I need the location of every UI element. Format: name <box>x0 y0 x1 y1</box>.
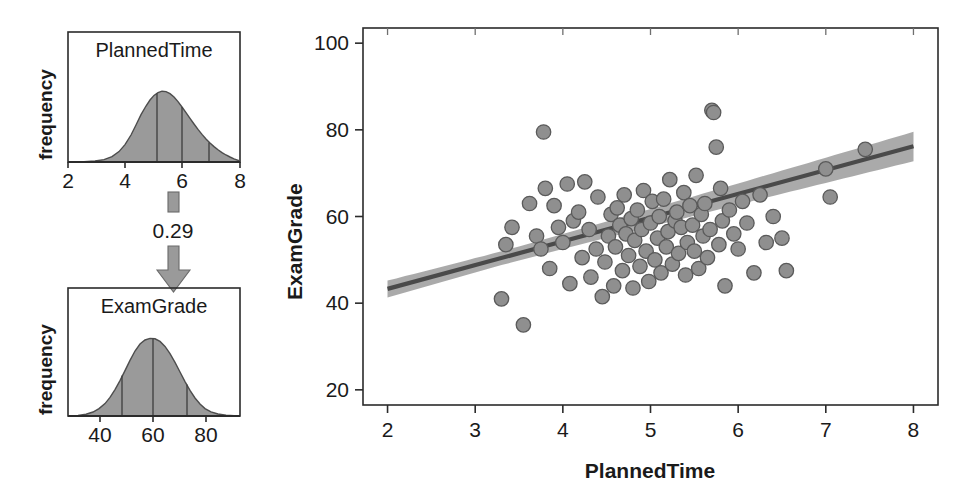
exam-grade-density-curve <box>68 338 240 416</box>
planned-time-panel-title: PlannedTime <box>95 39 212 61</box>
scatter-point <box>536 125 550 139</box>
scatter-point <box>823 190 837 204</box>
scatter-point <box>779 263 793 277</box>
scatter-point <box>819 162 833 176</box>
planned-time-density-curve <box>68 91 240 162</box>
scatter-point <box>722 203 736 217</box>
scatter-y-ticks: 20406080100 <box>314 31 363 401</box>
scatter-point <box>584 270 598 284</box>
scatter-point <box>678 268 692 282</box>
scatter-point <box>551 220 565 234</box>
exam-grade-panel-title: ExamGrade <box>101 295 208 317</box>
scatter-point <box>712 237 726 251</box>
scatter-point <box>538 181 552 195</box>
scatter-point <box>687 244 701 258</box>
scatter-point <box>499 237 513 251</box>
scatter-point <box>598 255 612 269</box>
scatterplot-panel: ExamGrade 20406080100 2345678 PlannedTim… <box>283 28 938 482</box>
scatter-point <box>621 248 635 262</box>
scatter-point <box>652 209 666 223</box>
scatter-xtick-label-7: 7 <box>820 418 832 441</box>
scatter-point <box>700 250 714 264</box>
scatter-point <box>713 181 727 195</box>
exam-grade-xtick-2: 80 <box>194 423 217 446</box>
scatter-point <box>759 235 773 249</box>
scatter-point <box>727 227 741 241</box>
scatter-point <box>689 168 703 182</box>
scatter-ytick-label-80: 80 <box>326 118 349 141</box>
scatter-point <box>677 185 691 199</box>
exam-grade-density-panel: frequency 40 60 80 ExamGrade <box>35 288 240 446</box>
scatter-point <box>703 222 717 236</box>
scatter-x-ticks: 2345678 <box>382 28 920 441</box>
scatter-ytick-label-20: 20 <box>326 378 349 401</box>
scatter-point <box>589 242 603 256</box>
path-coefficient-label: 0.29 <box>153 219 194 242</box>
planned-time-xtick-3: 8 <box>234 169 246 192</box>
scatter-point <box>698 196 712 210</box>
scatter-point <box>608 240 622 254</box>
scatter-ytick-label-40: 40 <box>326 291 349 314</box>
exam-grade-frequency-label: frequency <box>35 324 56 415</box>
scatter-point <box>642 274 656 288</box>
scatter-xtick-label-3: 3 <box>469 418 481 441</box>
scatter-point <box>582 222 596 236</box>
planned-time-frequency-label: frequency <box>35 69 56 160</box>
scatter-point <box>735 194 749 208</box>
scatter-xtick-label-5: 5 <box>645 418 657 441</box>
scatter-point <box>626 281 640 295</box>
scatter-point <box>571 205 585 219</box>
scatter-point <box>505 220 519 234</box>
scatter-point <box>610 201 624 215</box>
scatter-point <box>648 253 662 267</box>
scatter-point <box>547 198 561 212</box>
scatter-point <box>740 216 754 230</box>
scatter-point <box>753 188 767 202</box>
scatter-point <box>633 259 647 273</box>
scatter-point <box>595 289 609 303</box>
scatter-x-axis-title: PlannedTime <box>585 459 715 482</box>
planned-time-xtick-2: 6 <box>176 169 188 192</box>
scatter-point <box>731 242 745 256</box>
exam-grade-xtick-1: 60 <box>141 423 164 446</box>
scatter-point <box>706 105 720 119</box>
scatter-point <box>858 142 872 156</box>
scatter-point <box>563 276 577 290</box>
scatter-y-axis-title: ExamGrade <box>283 183 306 300</box>
scatter-point <box>575 250 589 264</box>
scatter-point <box>615 263 629 277</box>
scatter-point <box>534 242 548 256</box>
scatter-point <box>656 192 670 206</box>
regression-confidence-band <box>388 132 914 298</box>
scatter-point <box>578 175 592 189</box>
scatter-point <box>663 172 677 186</box>
scatter-point <box>556 235 570 249</box>
scatter-point <box>543 261 557 275</box>
scatter-point <box>709 140 723 154</box>
planned-time-density-panel: frequency 2 4 6 8 PlannedTime <box>35 32 246 192</box>
scatter-xtick-label-8: 8 <box>908 418 920 441</box>
scatter-point <box>775 231 789 245</box>
path-arrow-group: 0.29 <box>153 192 194 292</box>
scatter-point <box>516 318 530 332</box>
figure-svg: frequency 2 4 6 8 PlannedTime 0.29 <box>0 0 957 498</box>
scatter-point <box>606 279 620 293</box>
scatter-point <box>529 229 543 243</box>
exam-grade-xtick-0: 40 <box>88 423 111 446</box>
scatter-point <box>630 203 644 217</box>
scatter-point <box>522 196 536 210</box>
planned-time-xtick-1: 4 <box>119 169 131 192</box>
scatter-point <box>718 279 732 293</box>
scatter-point <box>494 292 508 306</box>
scatter-point <box>617 188 631 202</box>
scatter-point <box>747 266 761 280</box>
scatter-point <box>766 209 780 223</box>
scatter-xtick-label-2: 2 <box>382 418 394 441</box>
scatter-xtick-label-6: 6 <box>732 418 744 441</box>
figure-root: frequency 2 4 6 8 PlannedTime 0.29 <box>0 0 957 498</box>
planned-time-xtick-0: 2 <box>62 169 74 192</box>
scatter-point <box>670 205 684 219</box>
scatter-point <box>591 190 605 204</box>
scatter-point <box>560 177 574 191</box>
scatter-xtick-label-4: 4 <box>557 418 569 441</box>
